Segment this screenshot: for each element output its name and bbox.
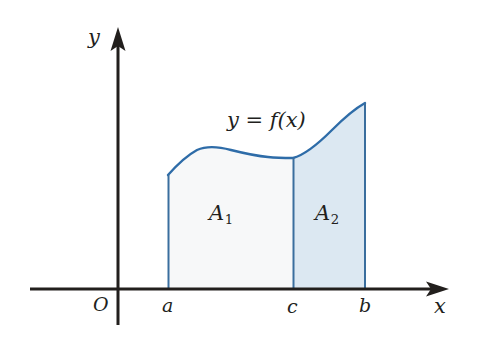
tick-label-b: b	[359, 296, 371, 315]
region-label-a2-letter: A	[315, 201, 330, 225]
region-label-a1-letter: A	[209, 201, 224, 225]
figure-canvas	[0, 0, 478, 360]
tick-label-c: c	[287, 297, 298, 316]
region-label-a2-subscript: 2	[331, 212, 339, 227]
curve-equation-label: y = f(x)	[227, 110, 306, 131]
y-axis-label: y	[88, 27, 100, 48]
region-label-a1-subscript: 1	[225, 212, 233, 227]
tick-label-a: a	[162, 296, 173, 315]
origin-label: O	[93, 295, 109, 314]
region-label-a2: A2	[315, 203, 339, 224]
region-label-a1: A1	[209, 203, 233, 224]
area-under-curve-figure: y x O a c b A1 A2 y = f(x)	[0, 0, 478, 360]
x-axis-label: x	[434, 296, 446, 317]
